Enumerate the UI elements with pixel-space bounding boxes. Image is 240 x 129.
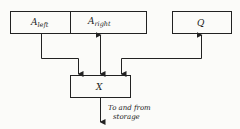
a-right-label: Aright bbox=[87, 16, 111, 28]
svg-text:Aright: Aright bbox=[87, 16, 111, 28]
a-left-label: Aleft bbox=[30, 17, 49, 29]
svg-text:X: X bbox=[95, 82, 103, 92]
svg-text:Aleft: Aleft bbox=[30, 17, 49, 29]
q-x-bidirectional-arrow bbox=[122, 35, 202, 74]
q-register: Q bbox=[173, 12, 232, 34]
storage-label: To and from storage bbox=[108, 104, 151, 121]
x-register: X bbox=[71, 76, 131, 98]
svg-text:Q: Q bbox=[197, 18, 205, 28]
svg-text:To and from: To and from bbox=[108, 104, 151, 112]
svg-text:storage: storage bbox=[113, 113, 140, 121]
register-diagram: Aleft Aright Q X To and from storage bbox=[0, 0, 240, 129]
a-left-to-x-arrow bbox=[42, 34, 79, 75]
